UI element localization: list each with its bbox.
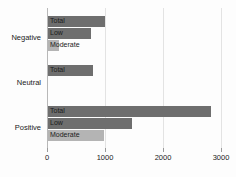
x-tick-3000	[221, 148, 222, 152]
bar-label-neutral-total: Total	[50, 64, 65, 75]
bar-label-negative-total: Total	[50, 15, 65, 26]
bar-neutral-total: Total	[48, 65, 93, 76]
bar-label-negative-moderate: Moderate	[50, 39, 80, 50]
bar-label-positive-low: Low	[50, 117, 63, 128]
bar-chart: Negative Total Low Moderate Neutral Tota…	[0, 0, 236, 177]
category-label-neutral: Neutral	[17, 78, 41, 87]
bar-label-negative-low: Low	[50, 27, 63, 38]
bar-label-positive-total: Total	[50, 105, 65, 116]
x-tick-label-1000: 1000	[97, 153, 114, 162]
category-label-positive: Positive	[15, 123, 41, 132]
bar-positive-moderate: Moderate	[48, 130, 104, 141]
x-axis: 0 1000 2000 3000	[47, 148, 221, 170]
x-tick-1000	[105, 148, 106, 152]
x-tick-label-3000: 3000	[213, 153, 230, 162]
gridline-2000	[163, 8, 164, 148]
bar-label-positive-moderate: Moderate	[50, 129, 80, 140]
x-tick-0	[47, 148, 48, 152]
bar-negative-low: Low	[48, 28, 91, 39]
bar-positive-total: Total	[48, 106, 211, 117]
gridline-3000	[221, 8, 222, 148]
x-tick-2000	[163, 148, 164, 152]
bar-positive-low: Low	[48, 118, 132, 129]
x-tick-label-2000: 2000	[155, 153, 172, 162]
x-tick-label-0: 0	[45, 153, 49, 162]
category-label-negative: Negative	[11, 33, 41, 42]
bar-negative-total: Total	[48, 16, 105, 27]
plot-area: Negative Total Low Moderate Neutral Tota…	[47, 8, 221, 148]
bar-negative-moderate: Moderate	[48, 40, 59, 51]
